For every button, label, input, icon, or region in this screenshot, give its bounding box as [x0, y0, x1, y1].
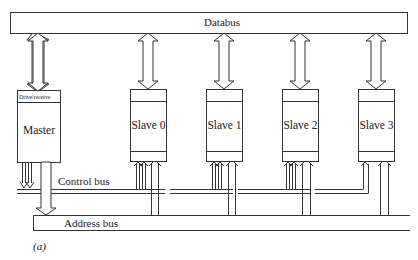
- control-bus-label: Control bus: [58, 175, 110, 187]
- slave-2-inputs: [284, 162, 313, 215]
- double-arrows: [28, 33, 386, 91]
- master-label: Master: [17, 124, 61, 136]
- slave-1-inputs: [210, 162, 238, 215]
- address-bus-label: Address bus: [64, 217, 118, 229]
- slave-1-label: Slave 1: [206, 119, 243, 131]
- master-control-arrows: [20, 163, 34, 188]
- slave-boxes: [131, 90, 395, 162]
- slave-0-label: Slave 0: [130, 119, 167, 131]
- slave1-databus-arrow: [214, 33, 234, 89]
- slave0-databus-arrow: [138, 33, 158, 89]
- master-databus-arrow: [28, 33, 48, 91]
- slave-2-label: Slave 2: [282, 119, 319, 131]
- slave-3-inputs: [361, 162, 391, 215]
- slave-0-inputs: [134, 162, 161, 215]
- slave2-databus-arrow: [290, 33, 310, 89]
- figure-caption: (a): [33, 240, 46, 252]
- master-address-arrow: [36, 162, 56, 215]
- control-bus: [17, 190, 369, 194]
- databus-label: Databus: [204, 16, 240, 28]
- slave-3-label: Slave 3: [358, 119, 395, 131]
- master-interface-label: Drive/receive: [19, 94, 50, 100]
- slave3-databus-arrow: [366, 33, 386, 89]
